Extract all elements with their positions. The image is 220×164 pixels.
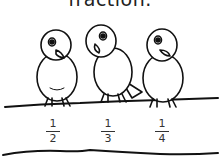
bird-icon <box>37 30 77 106</box>
denominator: 3 <box>98 133 118 145</box>
fraction-one-third: 1 3 <box>98 118 118 145</box>
bird-icon <box>86 25 142 102</box>
denominator: 2 <box>43 133 63 145</box>
fraction-one-half: 1 2 <box>43 118 63 145</box>
numerator: 1 <box>152 118 172 130</box>
numerator: 1 <box>98 118 118 130</box>
bird-icon <box>143 29 183 107</box>
numerator: 1 <box>43 118 63 130</box>
denominator: 4 <box>152 133 172 145</box>
fraction-one-quarter: 1 4 <box>152 118 172 145</box>
